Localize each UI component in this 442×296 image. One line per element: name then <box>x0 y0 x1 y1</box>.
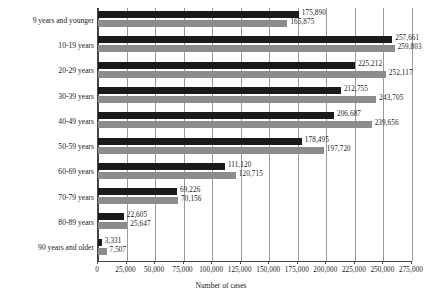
bar-value-label: 206,687 <box>337 111 361 118</box>
bar-value-label: 25,647 <box>130 221 150 228</box>
category-label: 9 years and younger <box>2 16 94 25</box>
bar <box>98 62 355 69</box>
x-axis-line <box>97 261 411 262</box>
bar <box>98 121 372 128</box>
bar <box>98 163 225 170</box>
bar <box>98 213 124 220</box>
bar <box>98 138 302 145</box>
bar-group: 257,661259,803 <box>98 33 411 58</box>
bar-value-label: 259,803 <box>398 44 422 51</box>
bar <box>98 222 127 229</box>
bar-group: 178,495197,720 <box>98 135 411 160</box>
tick-mark <box>183 261 184 264</box>
bar-value-label: 111,120 <box>228 162 252 169</box>
x-tick-label: 250,000 <box>370 266 394 274</box>
x-tick-label: 150,000 <box>256 266 280 274</box>
bar-value-label: 197,720 <box>327 146 351 153</box>
x-tick-label: 175,000 <box>285 266 309 274</box>
bar-value-label: 243,705 <box>379 95 403 102</box>
tick-mark <box>240 261 241 264</box>
bar <box>98 112 334 119</box>
x-tick-label: 200,000 <box>313 266 337 274</box>
bar-value-label: 239,656 <box>375 120 399 127</box>
bar-value-label: 175,890 <box>302 10 326 17</box>
tick-mark <box>382 261 383 264</box>
category-label: 90 years and older <box>2 243 94 252</box>
bar-group: 225,212252,117 <box>98 59 411 84</box>
category-axis-labels: 9 years and younger10-19 years20-29 year… <box>0 8 94 261</box>
bar-value-label: 165,875 <box>290 19 314 26</box>
bar <box>98 248 107 255</box>
bar-value-label: 257,661 <box>395 35 419 42</box>
tick-mark <box>211 261 212 264</box>
bar <box>98 172 236 179</box>
bar-value-label: 69,226 <box>180 187 200 194</box>
plot-area: 175,890165,875257,661259,803225,212252,1… <box>97 8 411 261</box>
category-label: 70-79 years <box>2 193 94 202</box>
tick-mark <box>268 261 269 264</box>
category-label: 10-19 years <box>2 41 94 50</box>
bar-value-label: 178,495 <box>305 137 329 144</box>
bar-value-label: 252,117 <box>389 70 413 77</box>
x-tick-label: 25,000 <box>115 266 135 274</box>
category-label: 20-29 years <box>2 66 94 75</box>
bar <box>98 45 395 52</box>
bar-value-label: 225,212 <box>358 61 382 68</box>
tick-mark <box>354 261 355 264</box>
tick-mark <box>126 261 127 264</box>
bar <box>98 71 386 78</box>
category-label: 80-89 years <box>2 218 94 227</box>
bar <box>98 36 392 43</box>
x-tick-label: 0 <box>95 266 99 274</box>
x-axis-title: Number of cases <box>0 281 442 290</box>
x-tick-label: 275,000 <box>399 266 423 274</box>
bar-value-label: 3,331 <box>105 238 122 245</box>
tick-mark <box>411 261 412 264</box>
bar <box>98 239 102 246</box>
bar-group: 175,890165,875 <box>98 8 411 33</box>
tick-mark <box>325 261 326 264</box>
bar <box>98 96 376 103</box>
bar-group: 69,22670,156 <box>98 185 411 210</box>
x-tick-label: 125,000 <box>228 266 252 274</box>
bar <box>98 87 341 94</box>
bar-group: 206,687239,656 <box>98 109 411 134</box>
x-tick-label: 100,000 <box>199 266 223 274</box>
bar-group: 3,3317,507 <box>98 236 411 261</box>
bar-group: 22,60525,647 <box>98 210 411 235</box>
bar <box>98 20 287 27</box>
category-label: 30-39 years <box>2 92 94 101</box>
bar-value-label: 120,715 <box>239 171 263 178</box>
category-label: 40-49 years <box>2 117 94 126</box>
x-tick-label: 50,000 <box>144 266 164 274</box>
bar <box>98 147 324 154</box>
bar-value-label: 70,156 <box>181 196 201 203</box>
bar <box>98 197 178 204</box>
tick-mark <box>297 261 298 264</box>
bar <box>98 11 299 18</box>
bar-value-label: 7,507 <box>110 247 127 254</box>
bar-value-label: 212,755 <box>344 86 368 93</box>
bar <box>98 188 177 195</box>
tick-mark <box>97 261 98 264</box>
bar-group: 212,755243,705 <box>98 84 411 109</box>
category-label: 50-59 years <box>2 142 94 151</box>
category-label: 60-69 years <box>2 167 94 176</box>
bar-chart: 9 years and younger10-19 years20-29 year… <box>0 0 442 296</box>
x-tick-label: 225,000 <box>342 266 366 274</box>
bar-value-label: 22,605 <box>127 212 147 219</box>
x-tick-label: 75,000 <box>172 266 192 274</box>
bar-group: 111,120120,715 <box>98 160 411 185</box>
tick-mark <box>154 261 155 264</box>
